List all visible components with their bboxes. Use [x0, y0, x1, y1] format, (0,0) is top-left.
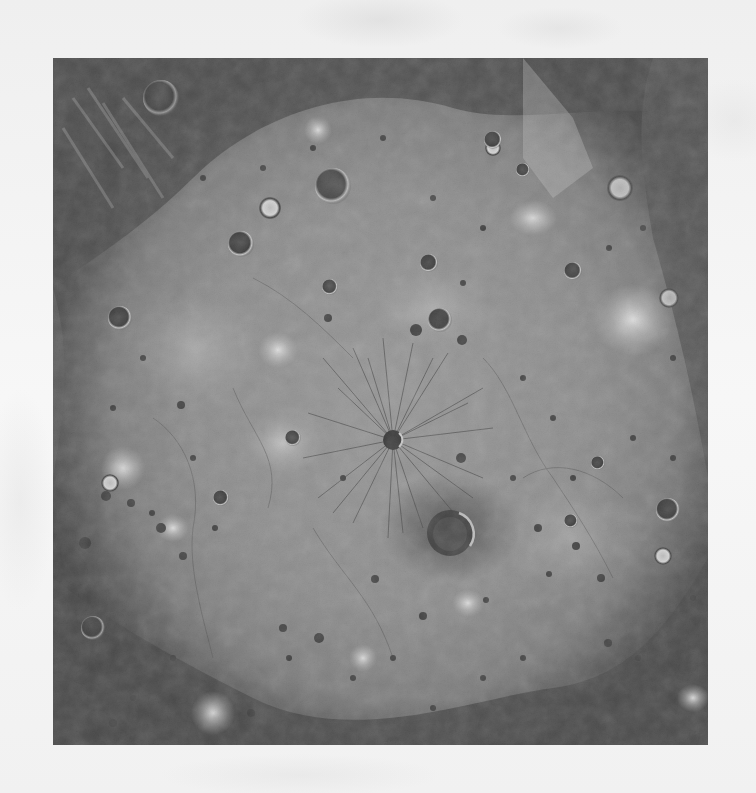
basin-image-svg: [53, 58, 708, 745]
grain-overlay: [53, 58, 708, 745]
basin-photo: [53, 58, 708, 745]
